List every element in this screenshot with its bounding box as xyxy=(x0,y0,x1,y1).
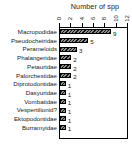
x-tick-mark xyxy=(104,23,105,27)
bar-chart: Number of spp 024681012 MacropodidaePseu… xyxy=(0,0,132,146)
x-tick-mark xyxy=(127,23,128,27)
bar-value-label: 1 xyxy=(68,99,71,106)
bar-value-label: 1 xyxy=(68,125,71,132)
bar xyxy=(60,125,66,130)
category-label: Vespertilionid? xyxy=(0,106,57,114)
bar-value-label: 1 xyxy=(68,91,71,98)
category-label: Macropodidae xyxy=(0,28,57,36)
category-label: Burramyidae xyxy=(0,124,57,132)
bar xyxy=(60,90,66,95)
bar-value-label: 2 xyxy=(73,56,76,63)
category-label: Palorchestidae xyxy=(0,72,57,80)
chart-title: Number of spp xyxy=(58,3,132,11)
bar xyxy=(60,73,71,78)
x-tick-mark xyxy=(82,23,83,27)
bar xyxy=(60,29,111,34)
bar-value-label: 1 xyxy=(68,82,71,89)
x-tick-mark xyxy=(93,23,94,27)
bar-value-label: 9 xyxy=(113,30,116,37)
x-tick-mark xyxy=(116,23,117,27)
bar xyxy=(60,55,71,60)
x-tick-mark xyxy=(59,23,60,27)
bar-value-label: 1 xyxy=(68,117,71,124)
bar-value-label: 3 xyxy=(79,47,82,54)
bars-layer: 953222111111 xyxy=(60,28,128,138)
category-label: Petauridae xyxy=(0,63,57,71)
category-label: Phalangeridae xyxy=(0,54,57,62)
plot-frame-bottom xyxy=(59,138,128,139)
bar xyxy=(60,108,66,113)
bar-value-label: 2 xyxy=(73,73,76,80)
bar-value-label: 5 xyxy=(90,38,93,45)
bar xyxy=(60,99,66,104)
y-axis-category-labels: MacropodidaePseudocheiridaePerameloidsPh… xyxy=(0,28,57,138)
bar xyxy=(60,116,66,121)
category-label: Perameloids xyxy=(0,45,57,53)
bar xyxy=(60,38,88,43)
bar-value-label: 2 xyxy=(73,65,76,72)
category-label: Ektopodontidae xyxy=(0,115,57,123)
category-label: Vombatidae xyxy=(0,98,57,106)
bar xyxy=(60,47,77,52)
category-label: Diprotodontidae xyxy=(0,80,57,88)
category-label: Dasyuridae xyxy=(0,89,57,97)
bar xyxy=(60,64,71,69)
category-label: Pseudocheiridae xyxy=(0,37,57,45)
bar xyxy=(60,81,66,86)
x-tick-mark xyxy=(70,23,71,27)
bar-value-label: 1 xyxy=(68,108,71,115)
